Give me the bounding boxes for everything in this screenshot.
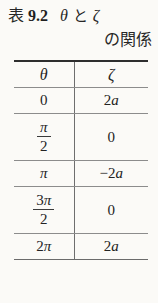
caption-number: 9.2 — [28, 7, 48, 25]
theta-zeta-table-wrapper: θ ζ 0 2a π 2 — [14, 60, 148, 290]
cell-theta-3: 3π 2 — [14, 187, 74, 234]
zeta-variable: a — [115, 165, 123, 181]
cell-zeta-0: 2a — [74, 88, 148, 114]
cell-theta-1: π 2 — [14, 114, 74, 161]
table-row: π −2a — [14, 161, 148, 187]
table-row: 3π 2 0 — [14, 187, 148, 234]
table-row: 2π 2a — [14, 234, 148, 260]
table-row: 0 2a — [14, 88, 148, 114]
zeta-value: 0 — [108, 129, 116, 145]
table-caption: 表 9.2 θ と ζ の関係 — [0, 0, 158, 58]
caption-symbol-zeta: ζ — [93, 7, 99, 25]
zeta-variable: a — [111, 92, 119, 108]
caption-conjunction: と — [73, 4, 88, 25]
table-row: π 2 0 — [14, 114, 148, 161]
fraction-denominator: 2 — [37, 137, 51, 154]
zeta-variable: a — [111, 238, 119, 254]
theta-pi: π — [44, 238, 52, 254]
cell-zeta-4: 2a — [74, 234, 148, 260]
cell-zeta-2: −2a — [74, 161, 148, 187]
fraction-numerator: 3π — [33, 193, 54, 210]
cell-theta-2: π — [14, 161, 74, 187]
column-header-zeta: ζ — [74, 61, 148, 88]
zeta-value: 0 — [108, 202, 116, 218]
theta-zeta-table: θ ζ 0 2a π 2 — [14, 60, 148, 260]
cell-theta-0: 0 — [14, 88, 74, 114]
fraction-pi-over-2: π 2 — [37, 120, 51, 154]
caption-line-2: の関係 — [0, 26, 152, 50]
caption-line-1: 表 9.2 θ と ζ — [8, 2, 154, 28]
numerator-pi: π — [44, 192, 52, 208]
cell-zeta-1: 0 — [74, 114, 148, 161]
table-header-row: θ ζ — [14, 61, 148, 88]
fraction-numerator: π — [37, 120, 51, 137]
theta-value: 0 — [40, 92, 48, 108]
column-header-theta: θ — [14, 61, 74, 88]
fraction-denominator: 2 — [33, 210, 54, 227]
cell-zeta-3: 0 — [74, 187, 148, 234]
theta-value: π — [40, 165, 48, 181]
fraction-3pi-over-2: 3π 2 — [33, 193, 54, 227]
zeta-sign: − — [100, 165, 108, 181]
caption-symbol-theta: θ — [60, 7, 68, 25]
theta-coefficient: 2 — [36, 238, 44, 254]
numerator-coefficient: 3 — [36, 192, 44, 208]
cell-theta-4: 2π — [14, 234, 74, 260]
caption-label: 表 — [8, 2, 24, 26]
